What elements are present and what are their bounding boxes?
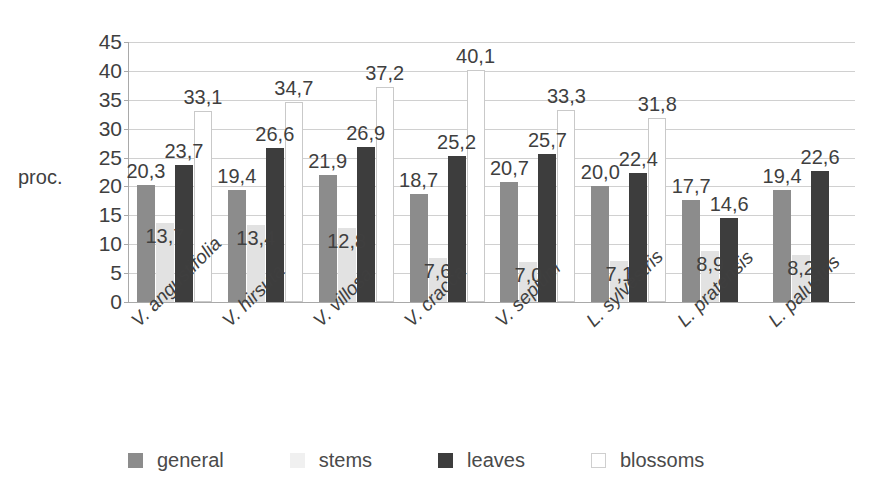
legend-item-stems[interactable]: stems [290,449,372,472]
bar-general[interactable] [410,194,428,302]
bar-general[interactable] [319,175,337,302]
y-axis-tick-label: 20 [76,175,122,196]
bar-general[interactable] [500,182,518,302]
y-axis-tick-label: 5 [76,262,122,283]
bar-blossoms[interactable] [376,87,394,302]
y-axis-tick [124,244,129,245]
x-axis-category-labels: V. angustifoliaV. hirsutaV. villosaV. cr… [128,302,855,422]
y-axis-tick [124,215,129,216]
legend-swatch-general [128,453,143,468]
y-axis-tick [124,158,129,159]
legend-swatch-stems [290,453,305,468]
y-axis-tick [124,186,129,187]
bar-group [500,42,575,302]
legend-item-general[interactable]: general [128,449,224,472]
bar-chart: proc. 051015202530354045 20,313,723,733,… [0,0,879,504]
y-axis-tick-label: 40 [76,60,122,81]
bar-general[interactable] [773,190,791,302]
bar-general[interactable] [137,185,155,302]
y-axis-tick [124,100,129,101]
chart-legend: generalstemsleavesblossoms [128,444,748,476]
bar-group [410,42,485,302]
y-axis-tick-labels: 051015202530354045 [66,42,122,302]
y-axis-tick-label: 15 [76,204,122,225]
y-axis-tick-label: 30 [76,118,122,139]
y-axis-tick-label: 35 [76,89,122,110]
legend-swatch-leaves [438,453,453,468]
bar-blossoms[interactable] [285,102,303,302]
y-axis-title: proc. [18,166,62,189]
y-axis-tick-label: 0 [76,291,122,312]
legend-item-blossoms[interactable]: blossoms [591,449,704,472]
bar-blossoms[interactable] [467,70,485,302]
legend-label: blossoms [620,449,704,472]
bar-general[interactable] [682,200,700,302]
legend-label: leaves [467,449,525,472]
y-axis-tick-label: 45 [76,31,122,52]
bar-group [228,42,303,302]
y-axis-tick-label: 10 [76,233,122,254]
y-axis-tick-label: 25 [76,147,122,168]
bar-general[interactable] [591,186,609,302]
legend-swatch-blossoms [591,453,606,468]
y-axis-tick [124,273,129,274]
y-axis-tick [124,71,129,72]
bar-group [319,42,394,302]
legend-label: stems [319,449,372,472]
legend-label: general [157,449,224,472]
y-axis-tick [124,42,129,43]
legend-item-leaves[interactable]: leaves [438,449,525,472]
bar-general[interactable] [228,190,246,302]
y-axis-tick [124,129,129,130]
